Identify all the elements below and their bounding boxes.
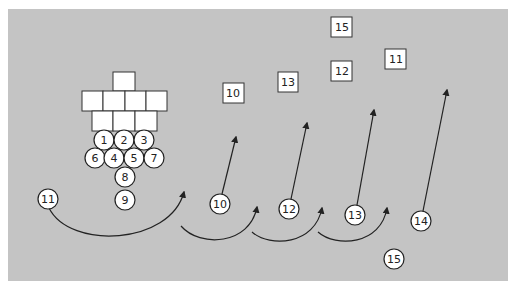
block bbox=[103, 91, 125, 111]
player-circle: 14 bbox=[411, 211, 431, 231]
svg-text:12: 12 bbox=[282, 203, 296, 216]
svg-text:3: 3 bbox=[141, 134, 148, 147]
target-square: 11 bbox=[385, 49, 406, 69]
block bbox=[125, 91, 146, 111]
player-circle: 5 bbox=[124, 148, 144, 168]
route-line bbox=[222, 137, 236, 194]
player-circle: 12 bbox=[279, 199, 299, 219]
player-circle: 1 bbox=[94, 130, 114, 150]
route-line bbox=[291, 123, 307, 199]
formation-blocks bbox=[82, 72, 167, 131]
player-circle: 9 bbox=[115, 190, 135, 210]
block bbox=[92, 111, 113, 131]
block bbox=[113, 111, 135, 131]
svg-text:8: 8 bbox=[122, 171, 129, 184]
svg-text:11: 11 bbox=[389, 53, 403, 66]
svg-text:13: 13 bbox=[281, 76, 295, 89]
svg-text:2: 2 bbox=[121, 134, 128, 147]
svg-text:15: 15 bbox=[387, 253, 401, 266]
player-circle: 10 bbox=[210, 194, 230, 214]
svg-text:10: 10 bbox=[226, 87, 240, 100]
receiver-circles: 11 10 12 13 14 15 bbox=[38, 189, 431, 269]
svg-text:1: 1 bbox=[101, 134, 108, 147]
target-square: 13 bbox=[278, 72, 298, 92]
svg-text:11: 11 bbox=[41, 193, 55, 206]
block bbox=[135, 111, 157, 131]
target-square: 12 bbox=[331, 61, 352, 81]
player-circle: 6 bbox=[85, 148, 105, 168]
player-circle: 11 bbox=[38, 189, 58, 209]
target-square: 15 bbox=[331, 17, 352, 37]
target-square: 10 bbox=[223, 83, 244, 103]
svg-text:12: 12 bbox=[335, 65, 349, 78]
svg-text:14: 14 bbox=[414, 215, 428, 228]
svg-text:4: 4 bbox=[111, 152, 118, 165]
play-diagram: 1 2 3 6 4 5 7 8 9 11 10 12 13 14 15 15 1… bbox=[0, 0, 516, 290]
svg-text:10: 10 bbox=[213, 198, 227, 211]
player-circle: 13 bbox=[345, 205, 365, 225]
svg-text:6: 6 bbox=[92, 152, 99, 165]
route-line bbox=[423, 90, 447, 211]
svg-text:9: 9 bbox=[122, 194, 129, 207]
svg-text:5: 5 bbox=[131, 152, 138, 165]
route-line bbox=[357, 110, 374, 205]
player-circle: 15 bbox=[384, 249, 404, 269]
block bbox=[113, 72, 135, 91]
block bbox=[146, 91, 167, 111]
defense-circles: 1 2 3 6 4 5 7 8 9 bbox=[85, 130, 164, 210]
player-circle: 2 bbox=[114, 130, 134, 150]
player-circle: 4 bbox=[104, 148, 124, 168]
svg-text:13: 13 bbox=[348, 209, 362, 222]
player-circle: 8 bbox=[115, 167, 135, 187]
svg-text:15: 15 bbox=[335, 21, 349, 34]
svg-text:7: 7 bbox=[151, 152, 158, 165]
block bbox=[82, 91, 103, 111]
target-squares: 15 12 11 13 10 bbox=[223, 17, 406, 103]
player-circle: 3 bbox=[134, 130, 154, 150]
player-circle: 7 bbox=[144, 148, 164, 168]
